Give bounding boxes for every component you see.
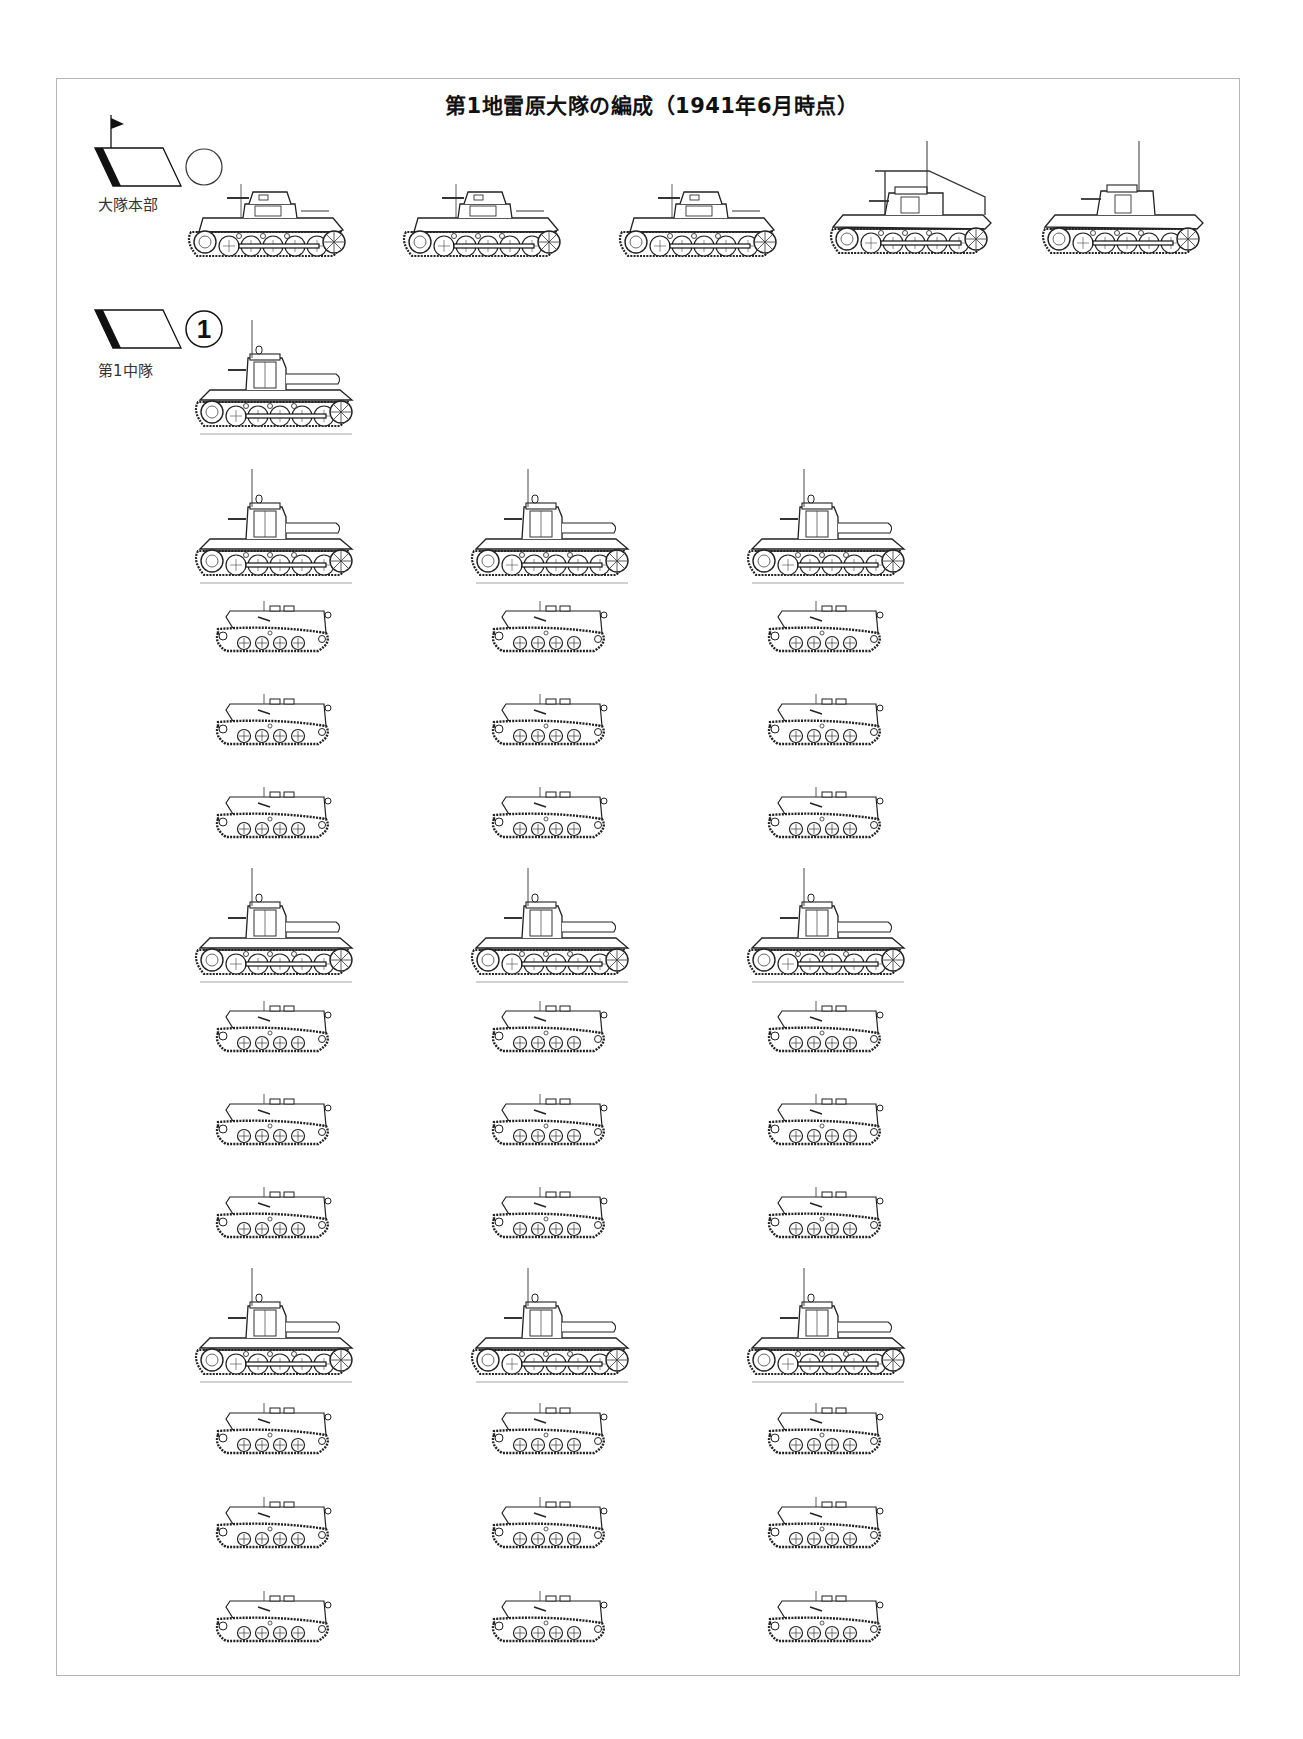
vehicle-platoon-2-carrier-r1-c2 [490,1000,615,1055]
vehicle-company-1-hq [190,338,360,438]
vehicle-platoon-3-leader-col1 [190,1286,360,1386]
vehicle-platoon-3-carrier-r3-c2 [490,1590,615,1645]
battalion-hq-label: 大隊本部 [98,193,158,214]
flag-icon [111,115,124,148]
vehicle-platoon-3-carrier-r1-c1 [214,1402,339,1457]
vehicle-platoon-1-leader-col2 [466,487,636,587]
armor-unit-icon [95,148,181,186]
vehicle-platoon-1-carrier-r1-c3 [766,600,891,655]
vehicle-platoon-1-leader-col3 [742,487,912,587]
vehicle-platoon-1-carrier-r3-c3 [766,786,891,841]
vehicle-battalion-hq-5 [1037,165,1209,265]
vehicle-platoon-2-leader-col1 [190,886,360,986]
vehicle-battalion-hq-2 [398,174,568,269]
vehicle-battalion-hq-1 [183,174,353,269]
vehicle-battalion-hq-3 [614,174,784,269]
armor-unit-icon [95,310,181,348]
vehicle-platoon-1-carrier-r2-c3 [766,693,891,748]
vehicle-platoon-2-carrier-r1-c1 [214,1000,339,1055]
vehicle-platoon-2-carrier-r3-c3 [766,1186,891,1241]
vehicle-platoon-3-carrier-r3-c1 [214,1590,339,1645]
vehicle-platoon-3-carrier-r2-c1 [214,1496,339,1551]
vehicle-platoon-1-leader-col1 [190,487,360,587]
vehicle-platoon-1-carrier-r3-c1 [214,786,339,841]
company-1-label: 第1中隊 [98,359,153,380]
vehicle-platoon-3-leader-col3 [742,1286,912,1386]
vehicle-platoon-1-carrier-r3-c2 [490,786,615,841]
vehicle-platoon-2-carrier-r2-c2 [490,1093,615,1148]
vehicle-platoon-2-carrier-r3-c2 [490,1186,615,1241]
vehicle-platoon-1-carrier-r1-c1 [214,600,339,655]
vehicle-platoon-3-carrier-r2-c2 [490,1496,615,1551]
vehicle-platoon-3-leader-col2 [466,1286,636,1386]
vehicle-platoon-1-carrier-r2-c2 [490,693,615,748]
vehicle-platoon-3-carrier-r1-c2 [490,1402,615,1457]
vehicle-platoon-3-carrier-r1-c3 [766,1402,891,1457]
vehicle-platoon-2-carrier-r1-c3 [766,1000,891,1055]
vehicle-platoon-2-leader-col2 [466,886,636,986]
vehicle-platoon-1-carrier-r2-c1 [214,693,339,748]
vehicle-battalion-hq-4 [825,165,997,265]
vehicle-platoon-3-carrier-r3-c3 [766,1590,891,1645]
vehicle-platoon-3-carrier-r2-c3 [766,1496,891,1551]
vehicle-platoon-2-leader-col3 [742,886,912,986]
vehicle-platoon-2-carrier-r3-c1 [214,1186,339,1241]
vehicle-platoon-2-carrier-r2-c3 [766,1093,891,1148]
vehicle-platoon-1-carrier-r1-c2 [490,600,615,655]
vehicle-platoon-2-carrier-r2-c1 [214,1093,339,1148]
